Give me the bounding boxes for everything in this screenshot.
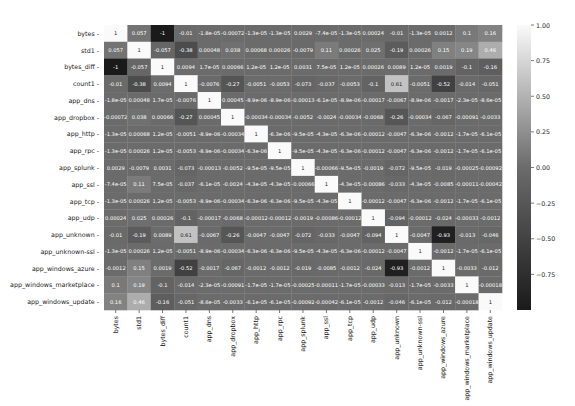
cell-value: 0.00048 (199, 47, 220, 53)
colorbar-tick-label: 0.25 (536, 128, 550, 135)
cell-value: -0.0012 (433, 131, 453, 137)
cell-value: -1.7e-05 (339, 282, 361, 288)
cell-value: -0.012 (482, 265, 499, 271)
cell-value: -0.072 (295, 232, 312, 238)
y-tick-label: app_rpc - (70, 147, 99, 155)
x-tick-label: app_tcp (346, 316, 354, 341)
cell-value: -0.094 (388, 215, 405, 221)
colorbar-tick-label: 0.50 (536, 93, 550, 100)
cell-value: -0.0053 (340, 81, 360, 87)
cell-value: 0.0089 (388, 64, 406, 70)
cell-value: -0.0067 (387, 97, 407, 103)
cell-value: 1 (489, 299, 492, 305)
x-tick-label: count1 (182, 316, 189, 338)
colorbar-tick-label: 0.00 (536, 164, 550, 171)
colorbar (517, 25, 531, 310)
cell-value: -0.0052 (223, 165, 243, 171)
cell-value: -1.3e-05 (245, 30, 267, 36)
cell-value: -0.00034 (338, 114, 362, 120)
cell-value: 0.00026 (128, 248, 149, 254)
cell-value: 0.00026 (363, 64, 384, 70)
cell-value: -8.9e-06 (269, 97, 291, 103)
cell-value: -0.27 (179, 114, 192, 120)
cell-value: -0.1 (181, 215, 191, 221)
cell-value: -0.072 (388, 165, 405, 171)
cell-value: -0.019 (295, 265, 312, 271)
cell-value: 0.0029 (294, 30, 312, 36)
cell-value: -1.7e-05 (245, 282, 267, 288)
cell-value: 0.057 (132, 30, 147, 36)
cell-value: -0.00012 (408, 215, 431, 221)
cell-value: 1 (231, 114, 234, 120)
cell-value: -0.0067 (199, 232, 219, 238)
cell-value: -0.19 (132, 232, 145, 238)
cell-value: -0.01 (109, 81, 122, 87)
cell-value: -0.0047 (387, 198, 407, 204)
cell-value: -6.1e-05 (339, 299, 361, 305)
cell-value: -0.0047 (387, 148, 407, 154)
cell-value: -0.0012 (433, 248, 453, 254)
cell-value: -0.00072 (221, 30, 244, 36)
cell-value: 0.025 (366, 47, 381, 53)
x-tick-label: app_splunk (299, 316, 307, 352)
cell-value: -0.00025 (291, 282, 314, 288)
cell-value: -0.01 (179, 30, 192, 36)
cell-value: -6.3e-06 (269, 248, 291, 254)
cell-value: -0.0019 (363, 165, 383, 171)
cell-value: -0.26 (390, 114, 403, 120)
cell-value: -8.9e-06 (409, 97, 431, 103)
cell-value: -6.3e-06 (269, 131, 291, 137)
cell-value: -2.3e-05 (198, 282, 220, 288)
cell-value: 1.2e-05 (153, 248, 173, 254)
cell-value: -0.0012 (340, 265, 360, 271)
cell-value: -0.073 (178, 165, 195, 171)
cell-value: -4.3e-05 (339, 181, 361, 187)
cell-value: -0.0053 (176, 148, 196, 154)
cell-value: -0.27 (226, 81, 239, 87)
cell-value: -0.00034 (268, 114, 292, 120)
cell-value: -6.1e-05 (409, 299, 431, 305)
cell-value: -0.00012 (245, 215, 268, 221)
cell-value: 0.61 (180, 232, 192, 238)
cell-value: 0.057 (108, 47, 123, 53)
cell-value: 1 (137, 47, 140, 53)
cell-value: -1.8e-05 (105, 97, 127, 103)
cell-value: -9.5e-05 (269, 165, 291, 171)
cell-value: -1.3e-05 (105, 248, 127, 254)
cell-value: -0.014 (459, 81, 476, 87)
x-tick-label: app_windows_update (486, 316, 494, 384)
cell-value: 0.46 (485, 47, 497, 53)
cell-value: 0.00026 (409, 47, 430, 53)
cell-value: -8.9e-06 (198, 198, 220, 204)
cell-value: -0.1 (462, 64, 472, 70)
cell-value: 1 (442, 265, 445, 271)
cell-value: -2.3e-05 (456, 97, 478, 103)
cell-value: -0.1 (157, 282, 167, 288)
cell-value: 0.038 (225, 47, 240, 53)
x-tick-label: app_rpc (276, 315, 284, 341)
cell-value: -6.3e-06 (245, 248, 267, 254)
cell-value: -0.024 (365, 265, 382, 271)
cell-value: -0.067 (224, 265, 241, 271)
cell-value: -6.1e-05 (479, 198, 501, 204)
cell-value: -0.00013 (291, 97, 314, 103)
cell-value: -0.0085 (316, 265, 336, 271)
cell-value: -0.38 (179, 47, 192, 53)
y-tick-label: app_ssl - (71, 181, 99, 189)
cell-value: -0.0076 (199, 81, 219, 87)
cell-value: 1 (325, 181, 328, 187)
cell-value: -8.6e-05 (479, 97, 501, 103)
cell-value: -0.00018 (455, 299, 478, 305)
cell-value: -6.3e-06 (409, 198, 431, 204)
cell-value: -0.067 (435, 114, 452, 120)
cell-value: -0.0047 (410, 232, 430, 238)
cell-value: -0.00086 (362, 181, 385, 187)
cell-value: -0.38 (132, 81, 145, 87)
cell-value: -0.0079 (129, 165, 149, 171)
cell-value: -4.3e-05 (245, 181, 267, 187)
cell-value: 0.19 (461, 47, 473, 53)
cell-value: -4.3e-05 (316, 198, 338, 204)
cell-value: -0.0024 (316, 114, 337, 120)
x-tick-label: bytes_diff (159, 315, 167, 346)
x-tick-label: app_windows_marketplace (463, 316, 471, 401)
